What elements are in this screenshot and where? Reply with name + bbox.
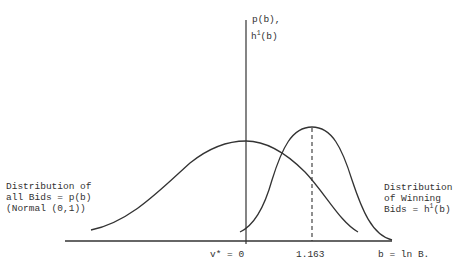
label-all-bids-line3: (Normal (0,1)): [6, 203, 86, 214]
chart-canvas: [0, 0, 474, 269]
x-axis-label: b = ln B.: [378, 249, 429, 260]
label-winning-bids-line1: Distribution: [384, 182, 452, 193]
label-winning-bids-line3: Bids = h1(b): [384, 204, 451, 215]
tick-label-zero: v* = 0: [210, 249, 244, 260]
curve-all-bids: [91, 141, 358, 232]
label-all-bids-line2: all Bids = p(b): [6, 192, 92, 203]
tick-label-mode: 1.163: [296, 249, 325, 260]
y-axis-label-line1: p(b),: [252, 14, 281, 25]
label-all-bids-line1: Distribution of: [6, 181, 92, 192]
y-axis-label-line2: h1(b): [251, 31, 278, 42]
